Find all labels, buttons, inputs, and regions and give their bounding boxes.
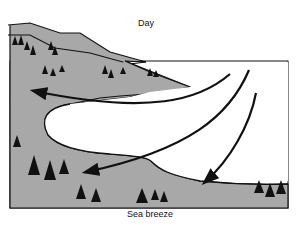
diagram-caption: Sea breeze xyxy=(115,209,185,219)
sea-breeze-diagram xyxy=(0,0,301,227)
